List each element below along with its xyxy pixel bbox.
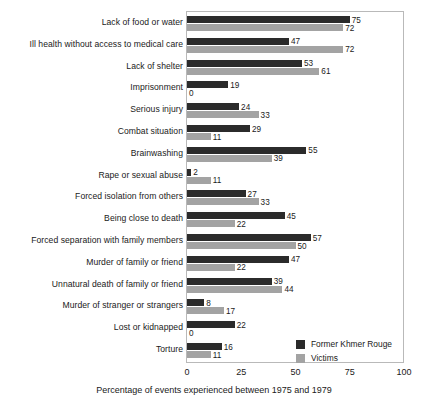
bar-value-label: 11 xyxy=(213,134,222,142)
bar-former-khmer-rouge xyxy=(187,299,204,306)
bar-victims xyxy=(187,68,319,75)
bar-value-label: 29 xyxy=(252,126,261,134)
bar-value-label: 16 xyxy=(224,344,233,352)
category-axis-labels: Lack of food or waterIll health without … xyxy=(0,0,183,360)
legend-swatch-icon xyxy=(296,340,305,349)
category-label: Forced isolation from others xyxy=(0,191,183,201)
bar-value-label: 50 xyxy=(298,243,307,251)
category-label: Forced separation with family members xyxy=(0,235,183,245)
category-label: Unnatural death of family or friend xyxy=(0,279,183,289)
bar-value-label: 11 xyxy=(213,352,222,360)
bar-value-label: 33 xyxy=(261,199,270,207)
chart-legend: Former Khmer RougeVictims xyxy=(296,338,392,366)
bar-value-label: 47 xyxy=(291,256,300,264)
bar-value-label: 72 xyxy=(345,25,354,33)
x-tick-label: 0 xyxy=(184,367,189,377)
bar-victims xyxy=(187,220,235,227)
bar-value-label: 11 xyxy=(213,177,222,185)
x-tick-label: 50 xyxy=(290,367,300,377)
bar-former-khmer-rouge xyxy=(187,278,272,285)
legend-label: Victims xyxy=(311,354,338,363)
bar-former-khmer-rouge xyxy=(187,103,239,110)
bar-value-label: 19 xyxy=(230,82,239,90)
bar-victims xyxy=(187,111,259,118)
bar-value-label: 0 xyxy=(189,90,194,98)
category-label: Lost or kidnapped xyxy=(0,322,183,332)
bar-value-label: 0 xyxy=(189,330,194,338)
bar-victims xyxy=(187,242,296,249)
bar-victims xyxy=(187,133,211,140)
x-tick-label: 75 xyxy=(345,367,355,377)
bar-victims xyxy=(187,351,211,358)
bar-victims xyxy=(187,286,282,293)
category-label: Ill health without access to medical car… xyxy=(0,39,183,49)
bar-value-label: 72 xyxy=(345,46,354,54)
category-label: Imprisonment xyxy=(0,82,183,92)
bar-former-khmer-rouge xyxy=(187,234,311,241)
category-label: Combat situation xyxy=(0,126,183,136)
bar-former-khmer-rouge xyxy=(187,16,350,23)
bar-value-label: 44 xyxy=(284,286,293,294)
legend-label: Former Khmer Rouge xyxy=(311,340,392,349)
x-tick-label: 25 xyxy=(236,367,246,377)
bar-value-label: 61 xyxy=(321,68,330,76)
bar-former-khmer-rouge xyxy=(187,321,235,328)
bar-victims xyxy=(187,307,224,314)
bar-former-khmer-rouge xyxy=(187,169,191,176)
bars-layer: 7572477253611902433291155392112733452257… xyxy=(187,12,404,362)
bar-victims xyxy=(187,264,235,271)
category-label: Lack of food or water xyxy=(0,17,183,27)
category-label: Murder of stranger or strangers xyxy=(0,300,183,310)
bar-former-khmer-rouge xyxy=(187,147,306,154)
category-label: Serious injury xyxy=(0,104,183,114)
bar-former-khmer-rouge xyxy=(187,256,289,263)
bar-victims xyxy=(187,24,343,31)
bar-value-label: 22 xyxy=(237,221,246,229)
bar-value-label: 22 xyxy=(237,264,246,272)
category-label: Lack of shelter xyxy=(0,61,183,71)
category-label: Torture xyxy=(0,344,183,354)
bar-former-khmer-rouge xyxy=(187,38,289,45)
x-tick-label: 100 xyxy=(396,367,411,377)
category-label: Being close to death xyxy=(0,213,183,223)
bar-value-label: 33 xyxy=(261,112,270,120)
bar-value-label: 57 xyxy=(313,235,322,243)
bar-value-label: 22 xyxy=(237,322,246,330)
bar-former-khmer-rouge xyxy=(187,60,302,67)
bar-former-khmer-rouge xyxy=(187,190,246,197)
bar-value-label: 55 xyxy=(308,147,317,155)
bar-victims xyxy=(187,46,343,53)
bar-victims xyxy=(187,155,272,162)
x-axis-title: Percentage of events experienced between… xyxy=(0,385,428,396)
category-label: Murder of family or friend xyxy=(0,257,183,267)
category-label: Rape or sexual abuse xyxy=(0,170,183,180)
bar-chart: Lack of food or waterIll health without … xyxy=(0,0,428,414)
bar-victims xyxy=(187,177,211,184)
legend-swatch-icon xyxy=(296,354,305,363)
x-axis: 0255075100 xyxy=(186,363,404,379)
bar-value-label: 39 xyxy=(274,155,283,163)
legend-item: Former Khmer Rouge xyxy=(296,338,392,351)
bar-former-khmer-rouge xyxy=(187,125,250,132)
bar-value-label: 45 xyxy=(287,213,296,221)
bar-former-khmer-rouge xyxy=(187,343,222,350)
bar-value-label: 17 xyxy=(226,308,235,316)
bar-former-khmer-rouge xyxy=(187,81,228,88)
bar-former-khmer-rouge xyxy=(187,212,285,219)
category-label: Brainwashing xyxy=(0,148,183,158)
bar-victims xyxy=(187,198,259,205)
